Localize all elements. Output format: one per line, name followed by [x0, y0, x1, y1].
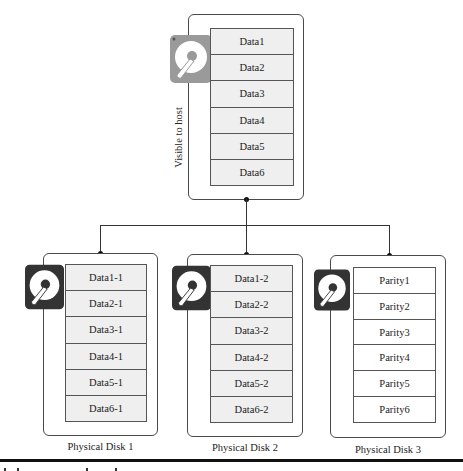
bottom-divider — [0, 459, 463, 462]
connector-line — [389, 225, 390, 255]
logical-block-column: Data1 Data2 Data3 Data4 Data5 Data6 — [210, 28, 294, 186]
parity-block: Parity5 — [354, 371, 435, 397]
physical-disk-2-label: Physical Disk 2 — [187, 442, 303, 453]
data-block: Data1-2 — [211, 266, 292, 292]
data-block: Data1 — [211, 29, 293, 55]
data-block: Data3-2 — [211, 318, 292, 344]
data-block: Data6-1 — [66, 396, 146, 421]
hard-disk-icon — [172, 265, 211, 311]
data-block: Data4 — [211, 108, 293, 134]
data-block: Data5-2 — [211, 371, 292, 397]
visible-to-host-label: Visible to host — [173, 102, 184, 174]
data-block: Data2 — [211, 55, 293, 81]
disk-2-block-column: Data1-2 Data2-2 Data3-2 Data4-2 Data5-2 … — [210, 265, 293, 423]
parity-block: Parity3 — [354, 320, 435, 346]
connector-line — [100, 225, 390, 226]
hard-disk-icon — [25, 264, 64, 310]
disk-3-block-column: Parity1 Parity2 Parity3 Parity4 Parity5 … — [353, 267, 436, 423]
data-block: Data5 — [211, 134, 293, 160]
data-block: Data1-1 — [66, 265, 146, 291]
hard-disk-icon — [314, 268, 350, 312]
data-block: Data4-1 — [66, 344, 146, 370]
parity-block: Parity4 — [354, 345, 435, 371]
data-block: Data2-2 — [211, 292, 292, 318]
disk-1-block-column: Data1-1 Data2-1 Data3-1 Data4-1 Data5-1 … — [65, 264, 147, 422]
data-block: Data6 — [211, 160, 293, 185]
parity-block: Parity2 — [354, 294, 435, 320]
data-block: Data3 — [211, 81, 293, 107]
parity-block: Parity6 — [354, 397, 435, 422]
data-block: Data4-2 — [211, 345, 292, 371]
data-block: Data6-2 — [211, 397, 292, 422]
hard-disk-icon — [170, 35, 212, 83]
physical-disk-1-label: Physical Disk 1 — [43, 441, 158, 452]
data-block: Data3-1 — [66, 317, 146, 343]
data-block: Data5-1 — [66, 370, 146, 396]
connector-line — [100, 225, 101, 253]
connector-line — [246, 199, 247, 255]
physical-disk-3-label: Physical Disk 3 — [330, 444, 446, 455]
parity-block: Parity1 — [354, 268, 435, 294]
data-block: Data2-1 — [66, 291, 146, 317]
